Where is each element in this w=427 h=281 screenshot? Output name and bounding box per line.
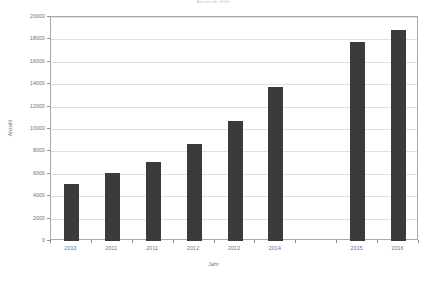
x-axis-tick-label: 2011 [132,245,172,251]
x-axis-tick-mark [254,240,255,243]
y-axis-tick-label: 8000 [5,147,45,153]
bar [350,42,365,241]
y-axis-tick-label: 6000 [5,170,45,176]
y-axis-tick-mark [47,16,50,17]
x-axis-tick-label: 2015 [337,245,377,251]
bar-chart: Anzahl der Fälle Anzahl 0200040006000800… [0,0,427,281]
x-axis-tick-label: 2010 [50,245,90,251]
y-axis-tick-mark [47,218,50,219]
x-axis-title: Jahr [0,261,427,267]
chart-title: Anzahl der Fälle [0,0,427,4]
y-axis-tick-label: 14000 [5,80,45,86]
plot-area [50,16,418,240]
gridline [51,39,417,40]
y-axis-tick-label: 20000 [5,13,45,19]
y-axis-tick-mark [47,83,50,84]
gridline [51,17,417,18]
y-axis-tick-mark [47,61,50,62]
y-axis-tick-label: 4000 [5,192,45,198]
y-axis-tick-label: 0 [5,237,45,243]
bar [228,121,243,241]
x-axis-tick-label: 2014 [255,245,295,251]
bar [268,87,283,241]
x-axis-tick-label: 2012 [173,245,213,251]
y-axis-tick-label: 12000 [5,103,45,109]
y-axis-tick-label: 10000 [5,125,45,131]
y-axis-tick-label: 16000 [5,58,45,64]
y-axis-tick-label: 18000 [5,35,45,41]
x-axis-tick-mark [336,240,337,243]
y-axis-tick-mark [47,38,50,39]
y-axis-tick-mark [47,150,50,151]
bar [64,184,79,241]
x-axis-tick-mark [418,240,419,243]
x-axis-tick-label: 2011 [91,245,131,251]
bar [391,30,406,241]
bar [146,162,161,241]
x-axis-tick-mark [50,240,51,243]
x-axis-tick-label: 2016 [378,245,418,251]
x-axis-tick-label: 2013 [214,245,254,251]
y-axis-tick-label: 2000 [5,215,45,221]
y-axis-tick-mark [47,106,50,107]
x-axis-tick-mark [91,240,92,243]
y-axis-tick-mark [47,128,50,129]
x-axis-tick-mark [214,240,215,243]
bar [187,144,202,241]
x-axis-tick-mark [377,240,378,243]
x-axis-tick-mark [132,240,133,243]
y-axis-tick-mark [47,195,50,196]
bar [105,173,120,241]
x-axis-tick-mark [295,240,296,243]
x-axis-tick-mark [173,240,174,243]
y-axis-tick-mark [47,173,50,174]
